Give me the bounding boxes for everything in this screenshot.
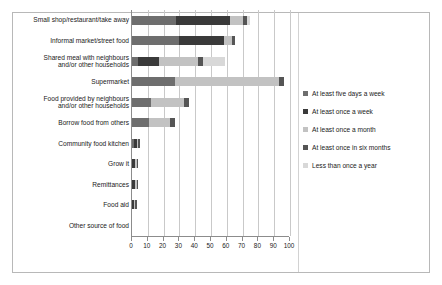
stacked-bar[interactable] xyxy=(132,180,138,189)
x-axis-tick-label: 20 xyxy=(159,242,166,249)
x-axis-tick xyxy=(210,237,211,241)
bar-segment[interactable] xyxy=(170,118,175,127)
category-label: Other source of food xyxy=(0,222,131,230)
bar-row xyxy=(132,215,289,236)
x-axis-tick-label: 0 xyxy=(129,242,133,249)
bar-segment[interactable] xyxy=(132,16,176,25)
bar-segment[interactable] xyxy=(132,118,149,127)
legend-item[interactable]: At least five days a week xyxy=(303,84,431,102)
legend-swatch-icon xyxy=(303,109,308,114)
legend-swatch-icon xyxy=(303,91,308,96)
legend-swatch-icon xyxy=(303,145,308,150)
bar-row xyxy=(132,113,289,134)
bar-segment[interactable] xyxy=(203,57,225,66)
bar-segment[interactable] xyxy=(132,36,179,45)
x-axis-tick-label: 50 xyxy=(206,242,213,249)
category-label: Borrow food from others xyxy=(0,119,131,127)
bar-segment[interactable] xyxy=(279,77,284,86)
stacked-bar[interactable] xyxy=(132,118,175,127)
legend-swatch-icon xyxy=(303,127,308,132)
bar-segment[interactable] xyxy=(132,77,175,86)
category-label: Remittances xyxy=(0,181,131,189)
x-axis: 0102030405060708090100 xyxy=(131,236,289,242)
legend-label: At least once a month xyxy=(312,126,376,133)
x-axis-tick xyxy=(147,237,148,241)
bar-segment[interactable] xyxy=(138,139,140,148)
plot-area xyxy=(131,10,289,236)
bar-row xyxy=(132,51,289,72)
x-axis-tick-label: 10 xyxy=(143,242,150,249)
x-axis-tick-label: 40 xyxy=(191,242,198,249)
legend-divider xyxy=(298,13,299,272)
x-axis-tick-label: 70 xyxy=(238,242,245,249)
x-axis-tick-label: 60 xyxy=(222,242,229,249)
category-label: Shared meal with neighbours and/or other… xyxy=(0,54,131,69)
chart-legend: At least five days a weekAt least once a… xyxy=(303,84,431,174)
bar-segment[interactable] xyxy=(224,36,232,45)
bar-segment[interactable] xyxy=(132,98,151,107)
category-label: Informal market/street food xyxy=(0,37,131,45)
stacked-bar[interactable] xyxy=(132,139,140,148)
stacked-bar[interactable] xyxy=(132,98,189,107)
bar-row xyxy=(132,133,289,154)
x-axis-tick xyxy=(163,237,164,241)
bar-row xyxy=(132,31,289,52)
legend-item[interactable]: At least once a week xyxy=(303,102,431,120)
bar-segment[interactable] xyxy=(137,180,139,189)
legend-label: Less than once a year xyxy=(312,162,377,169)
bar-row xyxy=(132,174,289,195)
category-axis-labels: Small shop/restaurant/take awayInformal … xyxy=(0,10,131,236)
stacked-bar[interactable] xyxy=(132,200,137,209)
stacked-bar[interactable] xyxy=(132,159,138,168)
bar-row xyxy=(132,154,289,175)
category-label: Community food kitchen xyxy=(0,140,131,148)
x-axis-tick-label: 90 xyxy=(270,242,277,249)
x-axis-tick xyxy=(178,237,179,241)
bar-row xyxy=(132,195,289,216)
bar-segment[interactable] xyxy=(149,118,170,127)
x-axis-tick-label: 30 xyxy=(175,242,182,249)
legend-label: At least once a week xyxy=(312,108,373,115)
legend-item[interactable]: At least once in six months xyxy=(303,138,431,156)
legend-label: At least once in six months xyxy=(312,144,390,151)
bar-segment[interactable] xyxy=(247,16,250,25)
bar-segment[interactable] xyxy=(184,98,189,107)
x-axis-tick-label: 100 xyxy=(284,242,295,249)
gridline xyxy=(290,10,291,236)
category-label: Grow it xyxy=(0,160,131,168)
stacked-bar[interactable] xyxy=(132,16,251,25)
x-axis-tick xyxy=(289,237,290,241)
x-axis-tick xyxy=(194,237,195,241)
legend-item[interactable]: Less than once a year xyxy=(303,156,431,174)
x-axis-tick xyxy=(226,237,227,241)
x-axis-tick-label: 80 xyxy=(254,242,261,249)
bar-segment[interactable] xyxy=(232,36,235,45)
category-label: Small shop/restaurant/take away xyxy=(0,16,131,24)
chart-root: Small shop/restaurant/take awayInformal … xyxy=(0,0,442,285)
category-label: Food provided by neighbours and/or other… xyxy=(0,95,131,110)
bar-segment[interactable] xyxy=(159,57,199,66)
bar-segment[interactable] xyxy=(137,159,139,168)
x-axis-tick xyxy=(273,237,274,241)
stacked-bar[interactable] xyxy=(132,77,284,86)
bar-segment[interactable] xyxy=(138,57,159,66)
category-label: Supermarket xyxy=(0,78,131,86)
stacked-bar[interactable] xyxy=(132,36,235,45)
legend-label: At least five days a week xyxy=(312,90,385,97)
legend-item[interactable]: At least once a month xyxy=(303,120,431,138)
legend-swatch-icon xyxy=(303,163,308,168)
x-axis-tick xyxy=(131,237,132,241)
bar-row xyxy=(132,72,289,93)
bar-segment[interactable] xyxy=(230,16,243,25)
category-label: Food aid xyxy=(0,201,131,209)
bar-segment[interactable] xyxy=(135,200,137,209)
bar-segment[interactable] xyxy=(175,77,279,86)
bar-segment[interactable] xyxy=(176,16,230,25)
bar-row xyxy=(132,10,289,31)
x-axis-tick xyxy=(257,237,258,241)
bar-segment[interactable] xyxy=(151,98,184,107)
stacked-bar[interactable] xyxy=(132,57,225,66)
x-axis-tick xyxy=(242,237,243,241)
bar-segment[interactable] xyxy=(179,36,223,45)
bar-row xyxy=(132,92,289,113)
